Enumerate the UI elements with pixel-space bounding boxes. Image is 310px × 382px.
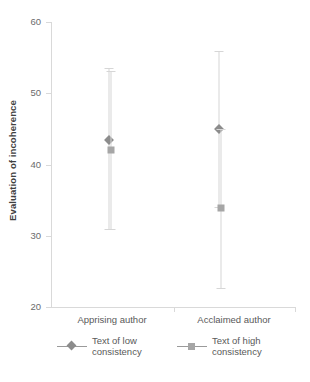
y-tick-mark-60	[46, 22, 51, 23]
legend-key-diamond-icon	[57, 340, 87, 352]
data-point-apprising-high-consistency	[108, 147, 115, 154]
error-bar-chart: Evaluation of incoherence 20 30 40 50 60…	[0, 0, 310, 382]
y-tick-mark-50	[46, 93, 51, 94]
chart-legend: Text of low consistency Text of high con…	[0, 333, 310, 379]
y-tick-label-50: 50	[7, 89, 41, 99]
y-tick-mark-30	[46, 236, 51, 237]
square-marker-icon	[188, 343, 195, 350]
legend-label-low-consistency: Text of low consistency	[92, 335, 142, 357]
legend-entry-high-consistency: Text of high consistency	[177, 335, 262, 357]
legend-label-high-consistency: Text of high consistency	[212, 335, 262, 357]
data-point-acclaimed-high-consistency	[218, 205, 225, 212]
x-axis-divider-end	[295, 307, 296, 312]
y-tick-label-30: 30	[7, 231, 41, 241]
x-category-label-acclaimed: Acclaimed author	[197, 314, 270, 325]
y-tick-label-20: 20	[7, 302, 41, 312]
error-bar-cap-top-apprising-low	[105, 68, 114, 69]
error-bar-cap-bottom-apprising-high	[107, 229, 116, 230]
plot-area: 20 30 40 50 60 Apprising author Acclaime…	[51, 22, 296, 307]
data-point-apprising-low-consistency	[104, 135, 114, 145]
y-tick-label-60: 60	[7, 17, 41, 27]
error-bar-cap-bottom-acclaimed-high	[217, 288, 226, 289]
error-bar-cap-top-apprising-high	[107, 71, 116, 72]
diamond-marker-icon	[67, 341, 77, 351]
y-axis-line	[51, 22, 52, 307]
error-bar-cap-top-acclaimed-low	[215, 51, 224, 52]
y-tick-label-40: 40	[7, 160, 41, 170]
y-tick-mark-40	[46, 165, 51, 166]
legend-entry-low-consistency: Text of low consistency	[57, 335, 142, 357]
x-category-label-apprising: Apprising author	[77, 314, 146, 325]
legend-key-square-icon	[177, 340, 207, 352]
error-bar-cap-top-acclaimed-high	[217, 129, 226, 130]
x-axis-divider-mid	[174, 307, 175, 312]
y-tick-mark-20	[46, 307, 51, 308]
